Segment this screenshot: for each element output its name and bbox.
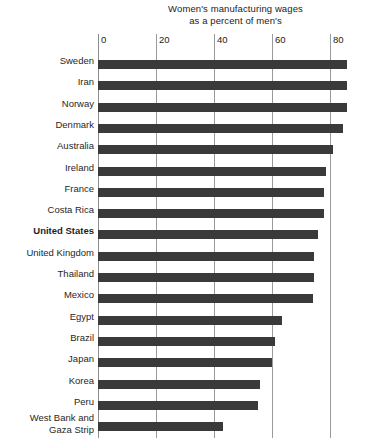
bar (98, 252, 314, 261)
category-label-denmark: Denmark (0, 119, 94, 130)
category-label-norway: Norway (0, 98, 94, 109)
bar-chart: Women's manufacturing wages as a percent… (0, 0, 383, 440)
category-label-australia: Australia (0, 140, 94, 151)
bar-row: West Bank and Gaza Strip (0, 417, 383, 438)
chart-title-line-1: Women's manufacturing wages (98, 3, 373, 15)
category-label-thailand: Thailand (0, 268, 94, 279)
bar-row: Denmark (0, 119, 383, 140)
chart-title-line-2: as a percent of men's (98, 15, 373, 27)
category-label-west-bank-and-gaza-strip: West Bank and Gaza Strip (0, 412, 94, 435)
bar-row: Iran (0, 76, 383, 97)
bar-row: Australia (0, 140, 383, 161)
bar (98, 230, 318, 239)
category-label-korea: Korea (0, 375, 94, 386)
bar-row: Mexico (0, 289, 383, 310)
bar-row: Sweden (0, 55, 383, 76)
category-label-egypt: Egypt (0, 311, 94, 322)
category-label-united-states: United States (0, 225, 94, 236)
category-label-united-kingdom: United Kingdom (0, 247, 94, 258)
category-label-sweden: Sweden (0, 55, 94, 66)
bar-row: United Kingdom (0, 247, 383, 268)
bar-row: Norway (0, 98, 383, 119)
category-label-peru: Peru (0, 396, 94, 407)
bar (98, 145, 333, 154)
bar-row: Costa Rica (0, 204, 383, 225)
bar (98, 337, 275, 346)
bar (98, 380, 260, 389)
category-label-ireland: Ireland (0, 162, 94, 173)
category-label-brazil: Brazil (0, 332, 94, 343)
bar (98, 358, 272, 367)
category-label-iran: Iran (0, 76, 94, 87)
bar-row: United States (0, 225, 383, 246)
chart-title: Women's manufacturing wages as a percent… (98, 3, 373, 27)
bar (98, 401, 258, 410)
category-label-costa-rica: Costa Rica (0, 204, 94, 215)
bar-row: Korea (0, 375, 383, 396)
category-label-france: France (0, 183, 94, 194)
bar (98, 422, 223, 431)
bar (98, 103, 347, 112)
bar (98, 167, 326, 176)
bar (98, 124, 343, 133)
bar (98, 273, 314, 282)
bar (98, 294, 313, 303)
bar (98, 81, 347, 90)
bar (98, 60, 347, 69)
category-label-mexico: Mexico (0, 289, 94, 300)
bar (98, 209, 324, 218)
bar-row: Japan (0, 353, 383, 374)
bar (98, 316, 282, 325)
bar-row: Brazil (0, 332, 383, 353)
bar-rows: SwedenIranNorwayDenmarkAustraliaIrelandF… (0, 55, 383, 440)
bar-row: Egypt (0, 311, 383, 332)
bar-row: Ireland (0, 162, 383, 183)
bar-row: France (0, 183, 383, 204)
bar-row: Thailand (0, 268, 383, 289)
bar (98, 188, 324, 197)
category-label-japan: Japan (0, 353, 94, 364)
